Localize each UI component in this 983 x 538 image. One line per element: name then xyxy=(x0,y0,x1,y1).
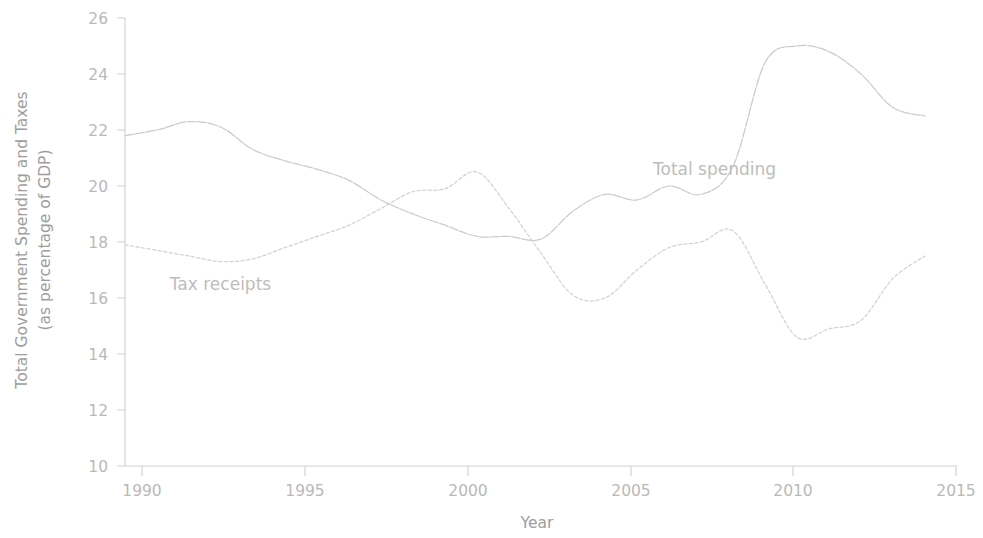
y-tick-label-24: 24 xyxy=(88,66,108,84)
y-axis-title-line1: Total Government Spending and Taxes xyxy=(13,91,31,389)
x-tick-label-2015: 2015 xyxy=(936,482,975,500)
x-axis-title: Year xyxy=(520,514,554,532)
series-annotation-total-spending: Total spending xyxy=(652,159,776,179)
series-annotation-tax-receipts: Tax receipts xyxy=(169,274,272,294)
series-line-tax-receipts xyxy=(125,172,925,340)
y-tick-label-20: 20 xyxy=(88,178,108,196)
x-tick-label-2010: 2010 xyxy=(773,482,812,500)
chart-figure: 26 24 22 20 18 16 14 12 10 1990 1995 200… xyxy=(0,0,983,538)
x-axis-ticks xyxy=(142,466,956,476)
y-tick-label-10: 10 xyxy=(88,458,108,476)
y-tick-label-18: 18 xyxy=(88,234,108,252)
x-tick-label-1995: 1995 xyxy=(285,482,324,500)
line-chart-svg: 26 24 22 20 18 16 14 12 10 1990 1995 200… xyxy=(0,0,983,538)
x-tick-label-2000: 2000 xyxy=(448,482,487,500)
y-tick-label-14: 14 xyxy=(88,346,108,364)
y-axis-ticks xyxy=(117,18,125,466)
y-tick-label-12: 12 xyxy=(88,402,108,420)
y-axis-title-line2: (as percentage of GDP) xyxy=(36,150,54,331)
x-tick-label-2005: 2005 xyxy=(611,482,650,500)
x-tick-label-1990: 1990 xyxy=(122,482,161,500)
series-line-total-spending xyxy=(125,45,925,240)
y-tick-label-26: 26 xyxy=(88,10,108,28)
y-tick-label-22: 22 xyxy=(88,122,108,140)
y-tick-label-16: 16 xyxy=(88,290,108,308)
